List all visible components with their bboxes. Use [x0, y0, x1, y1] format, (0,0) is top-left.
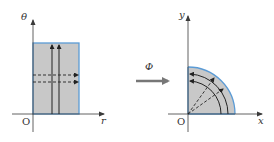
theta-axis-label: θ	[21, 12, 27, 22]
right-origin-label: O	[177, 117, 185, 127]
r-axis-label: r	[101, 116, 106, 126]
y-axis-label: y	[179, 10, 185, 20]
rectangle-region	[33, 43, 79, 114]
left-origin-label: O	[22, 117, 30, 127]
right-plot	[168, 16, 262, 132]
coordinate-map-diagram: θ O r Φ y O x	[0, 0, 274, 142]
x-axis-label: x	[258, 116, 264, 126]
diagram-canvas	[0, 0, 274, 142]
mapping-label: Φ	[145, 62, 153, 72]
